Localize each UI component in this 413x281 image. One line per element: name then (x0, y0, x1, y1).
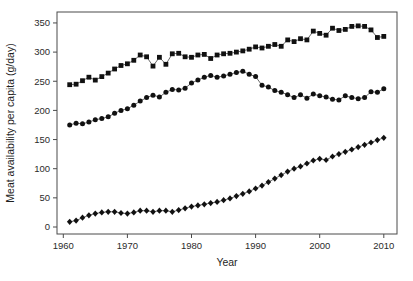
data-point-circle (74, 121, 79, 126)
y-tick-label: 150 (34, 134, 50, 145)
data-point-square (311, 29, 316, 34)
data-point-square (253, 45, 258, 50)
data-point-square (138, 53, 143, 58)
data-point-square (67, 82, 72, 87)
data-point-square (285, 38, 290, 43)
data-point-square (266, 44, 271, 49)
data-point-square (183, 54, 188, 59)
data-point-circle (234, 70, 239, 75)
data-point-square (164, 62, 169, 67)
y-tick-label: 250 (34, 76, 50, 87)
data-point-circle (304, 96, 309, 101)
y-tick-label: 200 (34, 105, 50, 116)
data-point-circle (93, 117, 98, 122)
data-point-circle (151, 93, 156, 98)
data-point-circle (375, 90, 380, 95)
data-point-circle (292, 95, 297, 100)
data-point-circle (183, 86, 188, 91)
data-point-square (349, 24, 354, 29)
data-point-circle (138, 99, 143, 104)
data-point-square (356, 24, 361, 29)
data-point-circle (202, 75, 207, 80)
data-point-square (381, 34, 386, 39)
y-axis-title: Meat availability per capita (g/day) (4, 43, 16, 202)
data-point-square (343, 27, 348, 32)
data-point-square (337, 28, 342, 33)
data-point-square (131, 58, 136, 63)
data-point-square (240, 49, 245, 54)
data-point-square (375, 35, 380, 40)
data-point-circle (163, 90, 168, 95)
data-point-square (330, 26, 335, 31)
data-point-circle (298, 92, 303, 97)
data-point-circle (176, 88, 181, 93)
data-point-circle (381, 86, 386, 91)
data-point-square (221, 51, 226, 56)
data-point-circle (285, 92, 290, 97)
data-point-circle (272, 88, 277, 93)
data-point-circle (189, 81, 194, 86)
y-tick-label: 300 (34, 46, 50, 57)
data-point-square (112, 67, 117, 72)
data-point-circle (247, 72, 252, 77)
data-point-circle (279, 90, 284, 95)
data-point-square (119, 63, 124, 68)
data-point-square (106, 71, 111, 76)
data-point-circle (112, 111, 117, 116)
data-point-circle (260, 83, 265, 88)
data-point-circle (311, 92, 316, 97)
x-tick-label: 1960 (53, 240, 74, 251)
plot-border (57, 12, 397, 234)
data-point-circle (336, 97, 341, 102)
data-point-square (202, 52, 207, 57)
data-point-square (93, 78, 98, 83)
meat-availability-figure: 0501001502002503003501960197019801990200… (0, 0, 413, 281)
data-point-square (99, 74, 104, 79)
data-point-square (279, 44, 284, 49)
data-point-square (228, 51, 233, 56)
data-point-circle (144, 95, 149, 100)
data-point-circle (195, 78, 200, 83)
meat-availability-chart: 0501001502002503003501960197019801990200… (0, 0, 413, 281)
data-point-circle (170, 87, 175, 92)
data-point-square (189, 55, 194, 60)
data-point-square (170, 51, 175, 56)
data-point-square (87, 75, 92, 80)
data-point-square (125, 61, 130, 66)
data-point-square (247, 47, 252, 52)
data-point-circle (131, 103, 136, 108)
data-point-square (151, 64, 156, 69)
data-point-square (196, 53, 201, 58)
y-tick-label: 50 (39, 192, 50, 203)
data-point-circle (157, 95, 162, 100)
x-axis-title: Year (216, 256, 238, 268)
data-point-circle (240, 69, 245, 74)
x-tick-label: 2010 (373, 240, 394, 251)
data-point-circle (221, 74, 226, 79)
data-point-circle (362, 95, 367, 100)
x-tick-label: 1970 (117, 240, 138, 251)
data-point-circle (99, 116, 104, 121)
data-point-circle (317, 93, 322, 98)
data-point-circle (349, 95, 354, 100)
data-point-circle (86, 120, 91, 125)
data-point-square (298, 36, 303, 41)
y-tick-label: 100 (34, 163, 50, 174)
data-point-square (157, 55, 162, 60)
data-point-circle (125, 106, 130, 111)
data-point-square (176, 51, 181, 56)
y-tick-label: 350 (34, 17, 50, 28)
data-point-circle (266, 85, 271, 90)
data-point-square (208, 56, 213, 61)
data-point-square (260, 46, 265, 51)
data-point-square (292, 39, 297, 44)
data-point-circle (324, 95, 329, 100)
x-tick-label: 2000 (309, 240, 330, 251)
data-point-circle (119, 108, 124, 113)
data-point-square (317, 31, 322, 36)
y-tick-label: 0 (45, 221, 50, 232)
x-tick-label: 1990 (245, 240, 266, 251)
data-point-square (305, 38, 310, 43)
x-tick-label: 1980 (181, 240, 202, 251)
data-point-circle (228, 72, 233, 77)
